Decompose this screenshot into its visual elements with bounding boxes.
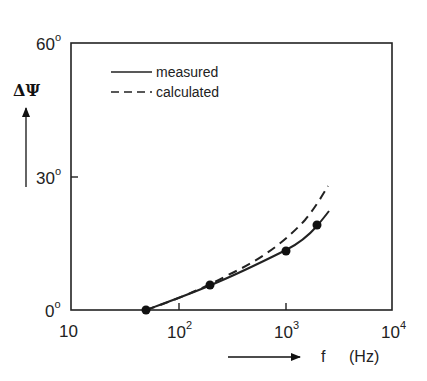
svg-text:104: 104	[381, 319, 406, 342]
x-tick-label-1000: 103	[274, 319, 299, 342]
legend: measured calculated	[111, 64, 219, 100]
legend-label-calculated: calculated	[156, 84, 219, 100]
plot-frame	[71, 43, 392, 310]
x-tick-label-10000: 104	[381, 319, 406, 342]
x-tick-label-10: 10	[59, 322, 78, 341]
x-axis-label-unit: (Hz)	[349, 348, 379, 365]
chart: 60o 30o 0o ΔΨ 10 102 103 104 f (Hz) meas…	[0, 0, 427, 381]
data-point	[206, 281, 215, 290]
y-tick-label-60: 60o	[36, 31, 61, 54]
y-tick-label-0: 0o	[45, 298, 61, 321]
svg-text:30o: 30o	[36, 165, 61, 188]
y-axis-label: ΔΨ	[13, 81, 40, 100]
svg-text:60o: 60o	[36, 31, 61, 54]
svg-text:102: 102	[167, 319, 192, 342]
x-tick-label-100: 102	[167, 319, 192, 342]
data-point	[282, 247, 291, 256]
svg-text:0o: 0o	[45, 298, 61, 321]
x-axis-label-f: f	[321, 348, 326, 365]
svg-text:103: 103	[274, 319, 299, 342]
series-measured-line	[146, 211, 329, 310]
y-tick-label-30: 30o	[36, 165, 61, 188]
data-point	[142, 306, 151, 315]
data-point	[313, 221, 322, 230]
series-calculated-line	[146, 186, 328, 310]
legend-label-measured: measured	[156, 64, 218, 80]
